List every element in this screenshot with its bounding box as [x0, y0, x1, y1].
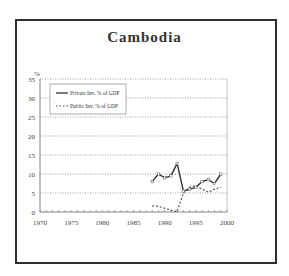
series-public-line [152, 185, 221, 211]
y-tick-label: 10 [28, 171, 36, 179]
x-tick-label: 1990 [158, 219, 173, 227]
x-tick-label: 2000 [220, 219, 235, 227]
series-private-marker [170, 175, 172, 177]
series-private-marker [201, 180, 203, 182]
series-private-marker [176, 162, 178, 164]
y-tick-label: 25 [28, 114, 36, 122]
x-tick-label: 1985 [127, 219, 142, 227]
y-tick-label: 5 [32, 190, 36, 198]
series-private-marker [195, 186, 197, 188]
legend-private-label: Private Inv. % of GDP [70, 90, 120, 96]
series-private-marker [188, 188, 190, 190]
y-unit-label: % [34, 70, 40, 78]
series-private-marker [213, 182, 215, 184]
x-tick-label: 1995 [189, 219, 204, 227]
series-private-marker [220, 173, 222, 175]
series-private-marker [182, 190, 184, 192]
y-tick-label: 30 [28, 95, 36, 103]
y-tick-label: 0 [32, 209, 36, 217]
y-tick-label: 20 [28, 133, 36, 141]
series-private-marker [157, 173, 159, 175]
series-private-line [152, 163, 221, 191]
y-tick-label: 15 [28, 152, 36, 160]
line-chart: 05101520253035%1970197519801985199019952… [0, 0, 289, 276]
x-tick-label: 1975 [64, 219, 79, 227]
series-private-marker [207, 179, 209, 181]
series-private-marker [163, 177, 165, 179]
legend-box [50, 84, 126, 114]
legend-public-label: Public Inv. % of GDP [70, 103, 118, 109]
x-tick-label: 1980 [95, 219, 110, 227]
x-tick-label: 1970 [33, 219, 48, 227]
series-private-marker [151, 180, 153, 182]
